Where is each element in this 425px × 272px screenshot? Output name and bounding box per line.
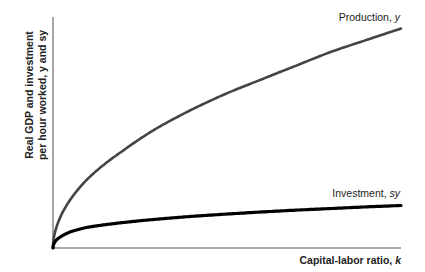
x-axis-label: Capital-labor ratio, k xyxy=(299,254,402,266)
y-axis-label-line-1: Real GDP and investment xyxy=(23,31,35,159)
series-investment-line xyxy=(53,206,401,249)
y-axis-label-line-2: per hour worked, y and sy xyxy=(36,30,48,160)
series-production-label: Production, y xyxy=(339,11,401,23)
series-investment-label: Investment, sy xyxy=(332,187,400,199)
chart: Real GDP and investment per hour worked,… xyxy=(0,0,425,272)
